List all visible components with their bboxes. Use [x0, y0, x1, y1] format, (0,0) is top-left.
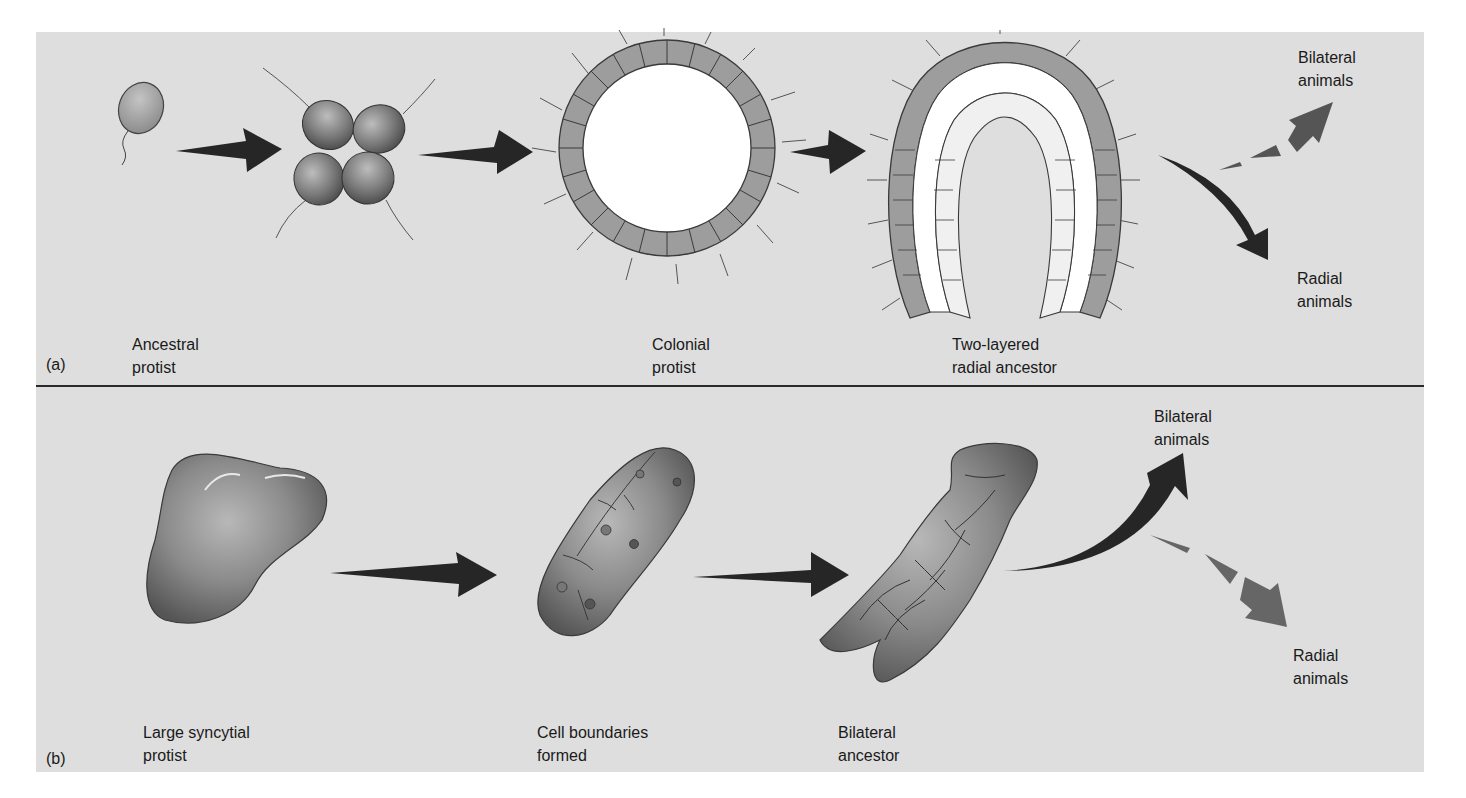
radial-outcome-arrow-icon: [1158, 155, 1268, 260]
cell-boundaries-formed-illustration: [538, 448, 695, 636]
label-large-syncytial-protist: Large syncytial protist: [143, 721, 250, 767]
label-bilateral-ancestor: Bilateral ancestor: [838, 721, 899, 767]
large-syncytial-protist-illustration: [147, 454, 327, 623]
four-cell-colony-illustration: [263, 68, 435, 240]
label-ancestral-protist: Ancestral protist: [132, 333, 199, 379]
radial-dashed-arrow-icon: [1150, 535, 1287, 627]
bilateral-ancestor-illustration: [820, 443, 1037, 682]
label-bilateral-animals-b: Bilateral animals: [1154, 405, 1212, 451]
label-colonial-protist: Colonial protist: [652, 333, 710, 379]
label-radial-animals-b: Radial animals: [1293, 644, 1348, 690]
bilateral-dashed-arrow-icon: [1219, 102, 1333, 170]
label-bilateral-animals-a: Bilateral animals: [1298, 46, 1356, 92]
arrow-icon: [693, 552, 849, 597]
arrow-icon: [790, 130, 866, 174]
figure-illustrations: [0, 0, 1466, 798]
part-label-a: (a): [46, 356, 66, 374]
arrow-icon: [418, 130, 533, 174]
panel-divider: [36, 385, 1424, 387]
label-two-layered-radial-ancestor: Two-layered radial ancestor: [952, 333, 1057, 379]
label-cell-boundaries-formed: Cell boundaries formed: [537, 721, 648, 767]
arrow-icon: [176, 128, 282, 172]
part-label-b: (b): [46, 750, 66, 768]
ancestral-protist-illustration: [111, 76, 170, 165]
arrow-icon: [330, 552, 497, 597]
label-radial-animals-a: Radial animals: [1297, 267, 1352, 313]
colonial-protist-illustration: [532, 28, 806, 284]
two-layered-radial-ancestor-illustration: [867, 30, 1140, 318]
